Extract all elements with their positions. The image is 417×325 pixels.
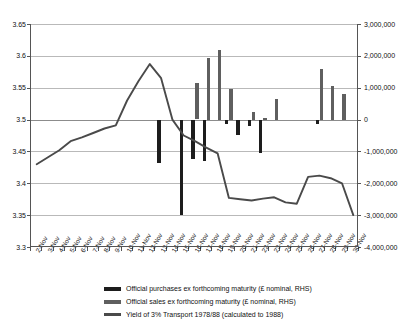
y-axis-left-tick-label: 3.4 xyxy=(0,180,26,187)
legend-swatch xyxy=(104,313,121,316)
plot-area xyxy=(30,24,358,247)
legend-label: Yield of 3% Transport 1978/88 (calculate… xyxy=(126,311,283,319)
legend-item: Yield of 3% Transport 1978/88 (calculate… xyxy=(104,308,312,321)
y-axis-left-tick-label: 3.3 xyxy=(0,244,26,251)
y-axis-left-tick-label: 3.55 xyxy=(0,84,26,91)
y-axis-right-tick-label: 1,000,000 xyxy=(364,84,395,91)
legend-label: Official purchases ex forthcoming maturi… xyxy=(126,285,312,293)
y-axis-right-tick-label: -3,000,000 xyxy=(364,212,397,219)
y-axis-left-tick-label: 3.65 xyxy=(0,21,26,28)
chart-legend: Official purchases ex forthcoming maturi… xyxy=(104,282,312,321)
y-axis-right-tick-label: 3,000,000 xyxy=(364,21,395,28)
legend-swatch xyxy=(104,300,121,304)
y-axis-right-tick-label: 2,000,000 xyxy=(364,52,395,59)
y-axis-right-tick-label: -4,000,000 xyxy=(364,244,397,251)
legend-swatch xyxy=(104,287,121,291)
y-axis-left-tick-label: 3.45 xyxy=(0,148,26,155)
y-axis-left-tick-label: 3.6 xyxy=(0,52,26,59)
y-axis-left-tick-label: 3.35 xyxy=(0,212,26,219)
series-yield-line xyxy=(31,24,359,247)
x-axis-tick xyxy=(30,247,31,251)
y-axis-left-tick-label: 3.5 xyxy=(0,116,26,123)
legend-label: Official sales ex forthcoming maturity (… xyxy=(126,298,296,306)
y-axis-right-tick-label: -2,000,000 xyxy=(364,180,397,187)
chart-container: 3.33.353.43.453.53.553.63.65 -4,000,000-… xyxy=(0,0,417,325)
legend-item: Official sales ex forthcoming maturity (… xyxy=(104,295,312,308)
y-axis-right-tick-label: -1,000,000 xyxy=(364,148,397,155)
legend-item: Official purchases ex forthcoming maturi… xyxy=(104,282,312,295)
y-axis-right-tick-label: 0 xyxy=(364,116,368,123)
